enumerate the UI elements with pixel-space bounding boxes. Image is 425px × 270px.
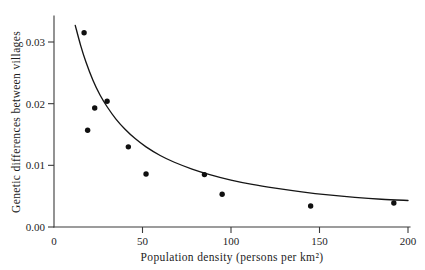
data-point [202, 172, 207, 177]
x-axis-tick-labels: 050100150200 [51, 235, 417, 247]
data-point [92, 105, 97, 110]
data-point [126, 144, 131, 149]
x-tick-label: 100 [223, 235, 240, 247]
y-tick-label: 0.02 [26, 98, 45, 110]
x-tick-label: 50 [137, 235, 149, 247]
y-tick-label: 0.01 [26, 159, 45, 171]
data-point [391, 200, 396, 205]
x-tick-label: 150 [311, 235, 328, 247]
data-point [219, 192, 224, 197]
x-tick-label: 0 [51, 235, 57, 247]
y-axis-tick-labels: 0.000.010.020.03 [26, 36, 46, 233]
axes-group [54, 16, 410, 227]
data-point [85, 127, 90, 132]
x-tick-label: 200 [400, 235, 417, 247]
y-tick-label: 0.00 [26, 221, 46, 233]
y-axis-ticks [48, 42, 54, 227]
data-point [308, 203, 313, 208]
chart-figure: 0.000.010.020.03 050100150200 Population… [0, 0, 425, 270]
data-point [81, 30, 86, 35]
fitted-curve [75, 25, 408, 200]
x-axis-ticks [143, 227, 409, 233]
scatter-plot: 0.000.010.020.03 050100150200 Population… [0, 0, 425, 270]
data-point [104, 99, 109, 104]
y-axis-title: Genetic differences between villages [10, 31, 23, 213]
data-point [143, 171, 148, 176]
y-tick-label: 0.03 [26, 36, 46, 48]
x-axis-title: Population density (persons per km²) [141, 251, 324, 264]
